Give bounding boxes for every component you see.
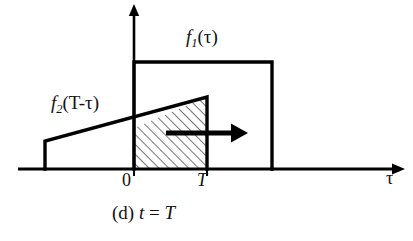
f1-label-arg: (τ) — [198, 26, 218, 47]
f2-label-arg: (T-τ) — [63, 92, 99, 113]
x-axis — [18, 164, 405, 175]
shift-arrowhead — [231, 124, 248, 143]
x-axis-arrowhead — [392, 164, 405, 175]
y-axis-arrowhead — [129, 4, 139, 16]
figure-caption: (d) t = T — [112, 203, 175, 222]
tau-axis-label: τ — [386, 169, 393, 187]
t-tick-label: T — [197, 171, 207, 189]
caption-value: T — [164, 202, 175, 223]
f2-label: f2(T-τ) — [51, 93, 99, 115]
f1-label: f1(τ) — [186, 27, 218, 49]
origin-tick-label: 0 — [122, 171, 131, 189]
caption-index: (d) — [112, 202, 134, 223]
convolution-figure: f1(τ) f2(T-τ) 0 T τ (d) t = T — [0, 0, 413, 241]
caption-equals: = — [149, 202, 160, 223]
